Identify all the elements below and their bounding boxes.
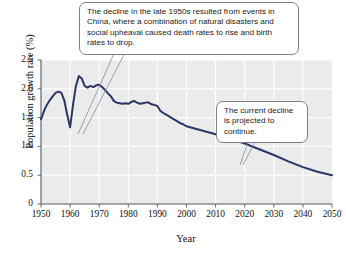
y-tick-label: 0.5 — [7, 169, 33, 179]
y-tick-label: 2.5 — [7, 54, 33, 64]
x-tick-label: 2050 — [315, 209, 346, 219]
y-tick-label: 1.5 — [7, 112, 33, 122]
annotation-china-decline: The decline in the late 1950s resulted f… — [79, 2, 299, 55]
annotation-projection: The current decline is projected to cont… — [216, 101, 308, 143]
y-tick-label: 1.0 — [7, 140, 33, 150]
y-tick-label: 0 — [7, 198, 33, 208]
x-axis-label: Year — [38, 233, 334, 244]
y-tick-label: 2.0 — [7, 83, 33, 93]
